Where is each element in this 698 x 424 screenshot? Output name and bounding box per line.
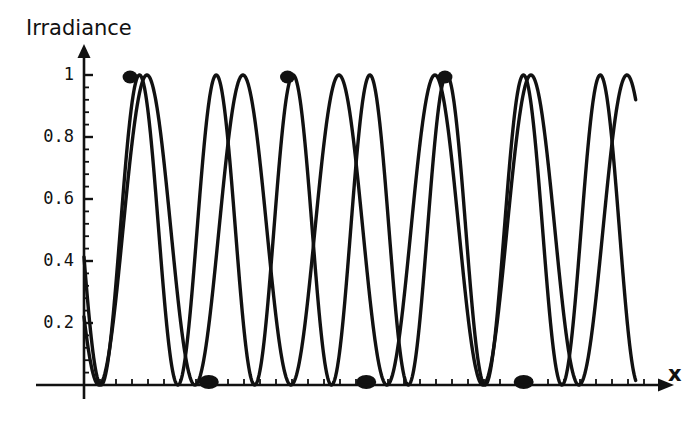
coincidence-maximum — [437, 71, 452, 84]
coincidence-maximum — [280, 71, 295, 84]
irradiance-plot-figure: Irradiance x 0.20.40.60.81 — [0, 0, 698, 424]
coincidence-minimum — [199, 375, 219, 389]
curve-curve-b — [84, 75, 636, 385]
y-tick-label: 1 — [0, 64, 74, 84]
coincidence-minimum — [356, 375, 376, 389]
y-axis-title: Irradiance — [26, 16, 132, 40]
y-tick-label: 0.2 — [0, 312, 74, 332]
y-axis-arrowhead — [78, 44, 91, 58]
y-tick-label: 0.8 — [0, 126, 74, 146]
curves-layer — [84, 75, 636, 385]
plot-canvas — [0, 0, 698, 424]
x-axis-title: x — [668, 363, 682, 385]
coincidence-maximum — [123, 71, 138, 84]
y-tick-label: 0.4 — [0, 250, 74, 270]
y-tick-label: 0.6 — [0, 188, 74, 208]
